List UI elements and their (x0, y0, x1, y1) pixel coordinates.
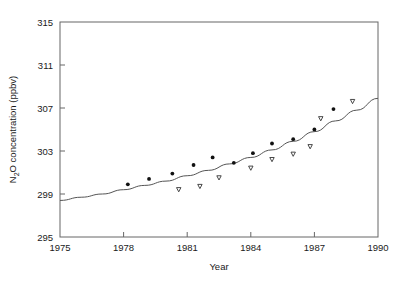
data-point-triangle (291, 152, 295, 156)
data-point-triangle (249, 166, 253, 170)
data-point-circle (170, 172, 174, 176)
data-point-circle (332, 107, 336, 111)
data-point-circle (192, 163, 196, 167)
data-point-circle (270, 142, 274, 146)
y-axis-title: N2O concentration (ppbv) (7, 76, 20, 183)
plot-svg: 2952993033073113151975197819811984198719… (0, 0, 412, 291)
chart-figure: 2952993033073113151975197819811984198719… (0, 0, 412, 291)
data-point-triangle (198, 184, 202, 188)
data-point-triangle (350, 99, 354, 103)
data-point-triangle (308, 145, 312, 149)
data-point-circle (291, 137, 295, 141)
data-point-circle (147, 177, 151, 181)
x-tick-label: 1987 (304, 242, 325, 253)
y-tick-label: 295 (37, 232, 53, 243)
data-point-triangle (217, 176, 221, 180)
y-tick-label: 303 (37, 146, 53, 157)
data-point-circle (211, 156, 215, 160)
x-axis-title: Year (209, 261, 228, 272)
data-point-triangle (270, 158, 274, 162)
trend-curve (60, 98, 378, 200)
plot-frame (60, 22, 378, 237)
data-point-circle (313, 128, 317, 132)
x-tick-label: 1978 (113, 242, 134, 253)
y-tick-label: 315 (37, 17, 53, 28)
data-point-triangle (319, 117, 323, 121)
data-point-triangle (177, 188, 181, 192)
y-tick-label: 299 (37, 189, 53, 200)
x-tick-label: 1981 (177, 242, 198, 253)
x-tick-label: 1984 (240, 242, 261, 253)
x-tick-label: 1990 (367, 242, 388, 253)
data-point-circle (126, 182, 130, 186)
data-point-circle (232, 161, 236, 165)
y-tick-label: 311 (38, 60, 53, 71)
y-axis-title-text: N2O concentration (ppbv) (7, 76, 20, 183)
x-tick-label: 1975 (49, 242, 70, 253)
y-tick-label: 307 (37, 103, 53, 114)
data-point-circle (251, 151, 255, 155)
